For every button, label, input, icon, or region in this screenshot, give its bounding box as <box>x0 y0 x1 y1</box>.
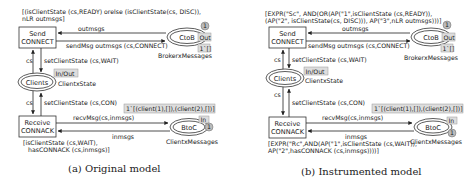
svg-text:Clients: Clients <box>26 79 49 87</box>
svg-text:Out: Out <box>444 34 456 41</box>
svg-text:1: 1 <box>203 22 207 29</box>
svg-text:1`[(client(1),[]),(client(2),[: 1`[(client(1),[]),(client(2),[])] <box>126 105 215 112</box>
guard-send-connect-line2: (AP("2", isClientState(cs, DISC))), AP("… <box>265 17 441 25</box>
transition-send-connect[interactable]: Send CONNECT <box>269 27 306 48</box>
svg-text:Receive: Receive <box>275 120 301 128</box>
caption-instrumented-model: (b) Instrumented model <box>301 166 422 177</box>
transition-receive-connack[interactable]: Receive CONNACK <box>19 116 56 137</box>
svg-text:1: 1 <box>207 123 211 130</box>
svg-text:CONNECT: CONNECT <box>21 38 54 46</box>
colorset-ctob: BrokerxMessages <box>158 52 212 60</box>
svg-text:BtoC: BtoC <box>425 124 441 132</box>
colorset-btoc: ClientxMessages <box>166 138 218 146</box>
svg-text:Receive: Receive <box>25 119 51 127</box>
colorset-btoc: ClientxMessages <box>410 138 462 146</box>
svg-text:In: In <box>201 116 207 123</box>
svg-text:1`[(client(1),[]),(client(2),[: 1`[(client(1),[]),(client(2),[])] <box>374 105 463 112</box>
svg-text:setClientState (cs,WAIT): setClientState (cs,WAIT) <box>44 57 119 64</box>
svg-text:In: In <box>449 117 455 124</box>
svg-text:recvMsg(cs,inmsgs): recvMsg(cs,inmsgs) <box>73 114 134 122</box>
svg-text:1: 1 <box>450 129 454 136</box>
svg-text:CONNECT: CONNECT <box>271 38 304 46</box>
svg-text:cs: cs <box>26 99 33 106</box>
svg-text:CtoB: CtoB <box>179 34 195 42</box>
svg-text:CtoB: CtoB <box>423 34 439 42</box>
svg-text:Send: Send <box>279 30 296 38</box>
svg-text:recvMsg(cs,inmsgs): recvMsg(cs,inmsgs) <box>322 114 383 122</box>
svg-text:1: 1 <box>445 21 449 28</box>
svg-text:cs: cs <box>26 57 33 64</box>
guard-send-connect-line1: [(isClientState (cs,READY) orelse (isCli… <box>22 8 201 15</box>
place-clients[interactable]: Clients <box>18 73 56 91</box>
colorset-ctob: BrokerxMessages <box>404 54 458 62</box>
transition-receive-connack[interactable]: Receive CONNACK <box>269 117 306 138</box>
panel-original-model: [(isClientState (cs,READY) orelse (isCli… <box>18 8 218 174</box>
place-clients[interactable]: Clients <box>266 69 304 87</box>
svg-text:Out: Out <box>200 34 212 41</box>
svg-text:1`[]: 1`[] <box>443 45 455 52</box>
svg-text:In/Out: In/Out <box>306 68 326 75</box>
svg-text:cs: cs <box>274 56 281 63</box>
guard-receive-connack-line1: [EXPR("Rc",AND(AP("1",isClientState (cs,… <box>268 140 417 147</box>
place-btoc[interactable]: BtoC <box>414 119 452 136</box>
svg-text:CONNACK: CONNACK <box>21 127 55 135</box>
svg-text:Send: Send <box>29 30 46 38</box>
svg-text:sendMsg outmsgs (cs,CONNECT): sendMsg outmsgs (cs,CONNECT) <box>308 42 410 50</box>
guard-receive-connack-line2: AP("2",hasCONNACK (cs,inmsgs))))] <box>268 147 379 155</box>
svg-text:cs: cs <box>274 91 281 98</box>
guard-send-connect-line2: nLR outmsgs] <box>22 15 65 23</box>
svg-text:BtoC: BtoC <box>181 124 197 132</box>
arc-outmsgs-label: outmsgs <box>78 25 105 33</box>
svg-text:In/Out: In/Out <box>56 70 76 77</box>
guard-send-connect-line1: [EXPR("Sc", AND(OR(AP("1",isClientState … <box>265 10 432 17</box>
caption-original-model: (a) Original model <box>68 163 161 174</box>
colorset-clients: ClientxState <box>58 80 96 87</box>
svg-text:outmsgs: outmsgs <box>342 25 369 33</box>
svg-text:setClientState (cs,WAIT): setClientState (cs,WAIT) <box>292 56 367 63</box>
svg-text:inmsgs: inmsgs <box>112 133 134 141</box>
petri-net-figure: [(isClientState (cs,READY) orelse (isCli… <box>0 0 476 192</box>
svg-text:Clients: Clients <box>274 75 297 83</box>
svg-text:setClientState (cs,CON): setClientState (cs,CON) <box>44 99 117 106</box>
guard-receive-connack-line2: hasCONNACK (cs,inmsgs)] <box>28 146 110 154</box>
panel-instrumented-model: [EXPR("Sc", AND(OR(AP("1",isClientState … <box>265 10 463 177</box>
svg-text:CONNACK: CONNACK <box>271 128 305 136</box>
svg-text:setClientState (cs,CON): setClientState (cs,CON) <box>292 99 365 106</box>
colorset-clients: ClientxState <box>305 77 343 84</box>
svg-text:1`[]: 1`[] <box>200 45 212 52</box>
arc-sendmsg-label: sendMsg outmsgs (cs,CONNECT) <box>66 42 168 50</box>
transition-send-connect[interactable]: Send CONNECT <box>19 27 56 48</box>
guard-receive-connack-line1: [isClientState (cs,WAIT), <box>23 139 98 146</box>
